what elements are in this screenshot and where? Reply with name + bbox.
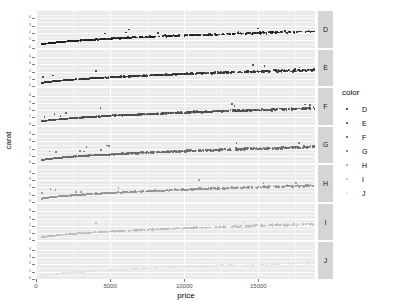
legend-item-i[interactable]: I xyxy=(340,172,406,186)
data-point xyxy=(279,225,281,227)
data-point xyxy=(280,71,282,73)
data-point xyxy=(152,113,154,115)
data-point xyxy=(203,259,205,261)
data-point xyxy=(292,185,294,187)
data-point xyxy=(61,118,63,120)
data-point xyxy=(172,151,174,153)
data-point xyxy=(142,151,144,153)
data-point xyxy=(44,81,46,83)
data-point xyxy=(176,189,178,191)
data-point xyxy=(92,116,94,118)
data-point xyxy=(162,74,164,76)
data-point xyxy=(55,42,57,44)
data-point xyxy=(314,261,315,263)
data-point xyxy=(216,149,218,151)
data-point xyxy=(135,152,137,154)
legend-item-f[interactable]: F xyxy=(340,130,406,144)
data-point xyxy=(122,230,124,232)
data-point xyxy=(216,264,218,266)
data-point xyxy=(120,37,122,39)
data-point xyxy=(171,189,173,191)
scatter-points xyxy=(36,88,315,125)
facet-strip-e: E xyxy=(318,50,333,87)
data-point xyxy=(110,76,112,78)
legend-key xyxy=(340,186,354,200)
data-point xyxy=(147,229,149,231)
legend-item-g[interactable]: G xyxy=(340,144,406,158)
data-point xyxy=(121,114,123,116)
data-point xyxy=(126,37,128,39)
x-tick-mark xyxy=(258,279,259,282)
data-point xyxy=(240,187,242,189)
legend-item-d[interactable]: D xyxy=(340,102,406,116)
data-point xyxy=(268,71,270,73)
data-point xyxy=(175,74,177,76)
data-point xyxy=(83,194,85,196)
data-point xyxy=(41,198,43,200)
data-point xyxy=(260,110,262,112)
data-point xyxy=(221,149,223,151)
y-tick-label: 0 xyxy=(29,239,31,242)
y-tick-label: 0 xyxy=(29,46,31,49)
data-point xyxy=(197,188,199,190)
legend-key xyxy=(340,172,354,186)
data-point xyxy=(281,262,283,264)
data-point xyxy=(65,41,67,43)
data-point xyxy=(258,32,260,34)
data-point xyxy=(85,39,87,41)
data-point xyxy=(294,108,296,110)
data-point xyxy=(177,151,179,153)
y-tick-label: 3 xyxy=(29,101,31,104)
data-point xyxy=(112,269,114,271)
y-tick-mark xyxy=(32,202,35,203)
data-point xyxy=(126,115,128,117)
data-point xyxy=(312,224,314,226)
data-point xyxy=(296,225,298,227)
data-point xyxy=(83,40,85,42)
legend-item-h[interactable]: H xyxy=(340,158,406,172)
y-tick-mark xyxy=(32,240,35,241)
legend-item-e[interactable]: E xyxy=(340,116,406,130)
data-point xyxy=(227,110,229,112)
x-tick-label: 5000 xyxy=(103,283,116,289)
data-point xyxy=(308,261,310,263)
data-point xyxy=(125,32,127,34)
y-tick-mark xyxy=(32,103,35,104)
data-point xyxy=(79,150,81,152)
data-point xyxy=(90,270,92,272)
data-point xyxy=(270,71,272,73)
y-tick-mark xyxy=(32,48,35,49)
data-point xyxy=(292,224,294,226)
data-point xyxy=(80,39,82,41)
data-point xyxy=(49,197,51,199)
data-point xyxy=(51,235,53,237)
data-point xyxy=(181,112,183,114)
data-point xyxy=(206,149,208,151)
data-point xyxy=(65,112,67,114)
data-point xyxy=(165,73,167,75)
data-point xyxy=(206,265,208,267)
data-point xyxy=(202,149,204,151)
data-point xyxy=(60,115,62,117)
data-point xyxy=(282,109,284,111)
data-point xyxy=(251,187,253,189)
legend-item-j[interactable]: J xyxy=(340,186,406,200)
data-point xyxy=(198,187,200,189)
x-tick-mark xyxy=(110,279,111,282)
data-point xyxy=(133,268,135,270)
y-tick-mark xyxy=(32,79,35,80)
data-point xyxy=(201,265,203,267)
data-point xyxy=(273,263,275,265)
data-point xyxy=(224,226,226,228)
data-point xyxy=(293,69,295,71)
data-point xyxy=(178,34,180,36)
data-point xyxy=(143,113,145,115)
data-point xyxy=(252,265,254,267)
y-tick-label: 1 xyxy=(29,231,31,234)
y-tick-label: 1 xyxy=(29,193,31,196)
data-point xyxy=(82,78,84,80)
data-point xyxy=(106,154,108,156)
data-point xyxy=(101,77,103,79)
data-point xyxy=(311,70,313,72)
data-point xyxy=(240,110,242,112)
